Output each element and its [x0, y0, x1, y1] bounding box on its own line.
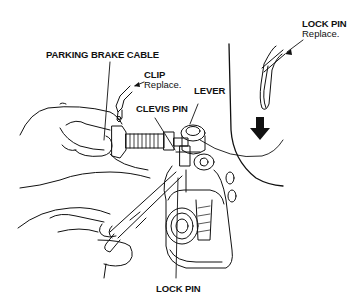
label-clevis-pin: CLEVIS PIN [136, 104, 188, 114]
lever-assembly [176, 125, 214, 170]
lock-pin-bottom-title: LOCK PIN [156, 284, 201, 294]
label-lock-pin-bottom: LOCK PIN [156, 284, 201, 294]
clip-note: Replace. [144, 80, 182, 90]
cable-adjuster [112, 126, 188, 158]
lock-pin-part [260, 46, 285, 109]
lever-title: LEVER [194, 86, 225, 96]
upper-hand [20, 103, 150, 188]
lower-hand [18, 208, 132, 278]
diagram-canvas: LOCK PIN Replace. PARKING BRAKE CABLE CL… [0, 0, 364, 306]
knuckle-edge [229, 44, 283, 186]
brake-caliper-illustration [0, 0, 364, 306]
parking-brake-cable-title: PARKING BRAKE CABLE [46, 50, 159, 60]
leader-lines [104, 40, 303, 278]
clevis-pin-title: CLEVIS PIN [136, 104, 188, 114]
label-lock-pin-top: LOCK PIN Replace. [302, 19, 347, 39]
label-parking-brake-cable: PARKING BRAKE CABLE [46, 50, 159, 60]
caliper-body [164, 166, 236, 268]
lock-pin-top-note: Replace. [302, 29, 347, 39]
direction-arrow [250, 117, 270, 140]
knuckle-curve [200, 140, 283, 157]
pliers-tool [105, 172, 182, 252]
label-lever: LEVER [194, 86, 225, 96]
arrowhead-lockpin [285, 49, 292, 55]
clip-part [116, 86, 132, 122]
label-clip: CLIP Replace. [144, 70, 182, 90]
